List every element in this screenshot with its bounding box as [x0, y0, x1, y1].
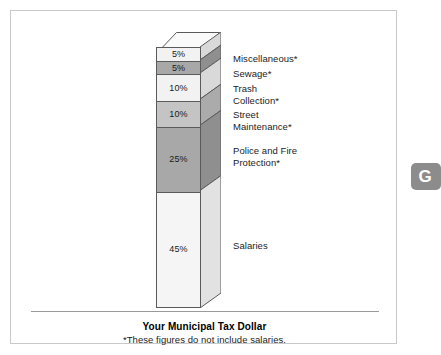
caption-footnote: *These figures do not include salaries.	[11, 333, 398, 346]
segment-value-label: 5%	[172, 64, 185, 73]
segment-label: Police and Fire Protection*	[233, 145, 297, 168]
column-front-faces: 5%5%10%10%25%45%	[156, 47, 201, 308]
column-side-face	[200, 32, 221, 308]
corner-badge-letter: G	[418, 168, 431, 185]
column-segment: 5%	[157, 48, 200, 62]
column-segment: 25%	[157, 128, 200, 193]
caption-divider	[31, 311, 379, 312]
segment-value-label: 45%	[169, 245, 187, 254]
caption-block: Your Municipal Tax Dollar *These figures…	[11, 320, 398, 346]
figure-frame: 5%5%10%10%25%45% Miscellaneous*Sewage*Tr…	[10, 10, 397, 344]
corner-badge[interactable]: G	[411, 163, 441, 190]
column-segment: 45%	[157, 193, 200, 307]
segment-value-label: 10%	[169, 110, 187, 119]
stacked-column-chart: 5%5%10%10%25%45%	[156, 32, 220, 308]
segment-value-label: 10%	[169, 84, 187, 93]
segment-label: Trash Collection*	[233, 83, 279, 106]
segment-value-label: 25%	[169, 155, 187, 164]
column-segment: 10%	[157, 75, 200, 101]
column-segment: 10%	[157, 102, 200, 128]
caption-title: Your Municipal Tax Dollar	[11, 320, 398, 333]
column-segment: 5%	[157, 62, 200, 76]
segment-value-label: 5%	[172, 50, 185, 59]
segment-label: Street Maintenance*	[233, 109, 292, 132]
segment-label: Miscellaneous*	[233, 53, 298, 65]
column-segment-side	[200, 176, 221, 308]
segment-label: Sewage*	[233, 68, 271, 80]
segment-label: Salaries	[233, 240, 268, 252]
